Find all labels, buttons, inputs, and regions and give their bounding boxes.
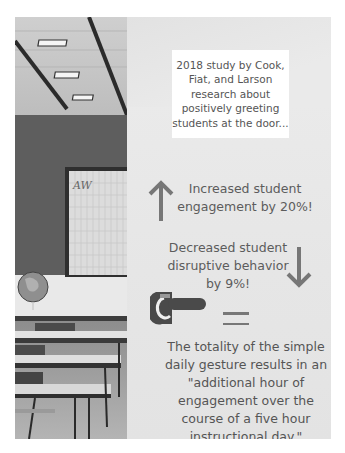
study-intro-box: 2018 study by Cook, Fiat, and Larson res… (172, 50, 289, 138)
equals-icon (223, 312, 249, 329)
stat-increase-text: Increased student engagement by 20%! (170, 180, 320, 216)
study-intro-text: 2018 study by Cook, Fiat, and Larson res… (172, 58, 289, 131)
classroom-photo: AW (15, 17, 127, 439)
svg-text:AW: AW (72, 179, 93, 192)
stat-decrease-text: Decreased student disruptive behavior by… (165, 239, 291, 293)
infographic-card: AW (15, 17, 331, 439)
conclusion-text: The totality of the simple daily gesture… (158, 338, 331, 439)
arrow-down-icon (285, 245, 313, 289)
clock-hand-icon (150, 290, 210, 326)
